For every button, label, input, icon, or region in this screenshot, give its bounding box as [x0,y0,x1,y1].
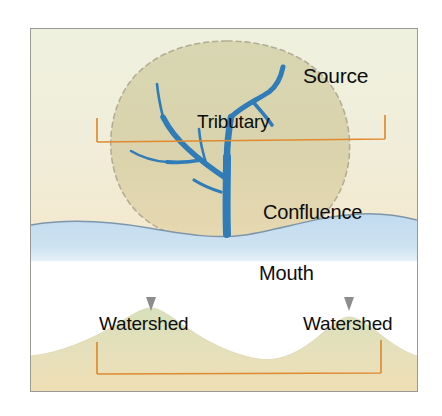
label-source: Source [303,65,368,86]
label-confluence: Confluence [263,202,362,222]
figure-frame: Source Tributary Confluence Mouth Waters… [30,28,418,392]
label-mouth: Mouth [259,263,314,283]
label-watershed-left: Watershed [99,314,188,333]
label-watershed-right: Watershed [303,314,392,333]
label-tributary: Tributary [197,112,269,131]
diagram-canvas: Source Tributary Confluence Mouth Waters… [0,0,442,416]
